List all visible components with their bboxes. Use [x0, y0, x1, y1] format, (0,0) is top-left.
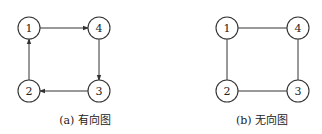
caption-undirected-graph: (b) 无向图	[236, 111, 288, 127]
node-label: 2	[26, 85, 33, 98]
node-label: 4	[96, 22, 103, 35]
undirected-graph: 1432	[216, 17, 309, 102]
caption-directed-graph: (a) 有向图	[59, 111, 111, 127]
directed-graph: 1432	[18, 17, 110, 102]
node-label: 1	[224, 22, 231, 35]
node-label: 4	[295, 22, 302, 35]
node-label: 3	[295, 85, 302, 98]
node-label: 1	[26, 22, 33, 35]
node-label: 2	[224, 85, 231, 98]
node-label: 3	[96, 85, 103, 98]
